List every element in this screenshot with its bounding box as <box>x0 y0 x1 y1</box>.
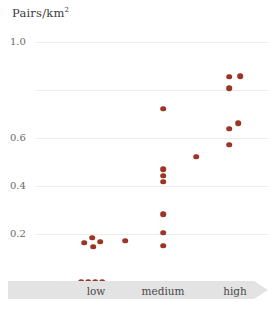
gridline-1 <box>36 42 268 43</box>
data-point <box>193 154 199 160</box>
data-point <box>235 120 241 126</box>
x-tick-label-low: low <box>87 285 106 297</box>
data-point <box>160 106 166 112</box>
y-tick-label-0.2: 0.2 <box>10 229 34 239</box>
gridline-0.8 <box>36 90 268 91</box>
gridline-0.6 <box>36 138 268 139</box>
plot-area: 0.20.40.61.0 <box>0 0 272 285</box>
y-tick-label-1.0: 1.0 <box>10 37 34 47</box>
gridline-0.4 <box>36 186 268 187</box>
data-point <box>226 142 232 148</box>
data-point <box>160 166 166 172</box>
data-point <box>237 73 243 79</box>
data-point <box>226 85 232 91</box>
data-point <box>89 235 95 241</box>
data-point <box>160 179 166 185</box>
data-point <box>160 230 166 236</box>
scatter-chart: Pairs/km2 0.20.40.61.0 lowmediumhigh <box>0 0 272 310</box>
data-point <box>226 74 232 80</box>
data-point <box>122 238 128 244</box>
data-point <box>160 211 166 217</box>
data-point <box>160 173 166 179</box>
data-point <box>90 244 96 250</box>
y-tick-label-0.6: 0.6 <box>10 133 34 143</box>
x-tick-label-medium: medium <box>142 285 185 297</box>
x-tick-label-high: high <box>223 285 247 297</box>
y-tick-label-0.4: 0.4 <box>10 181 34 191</box>
data-point <box>81 240 87 246</box>
gridline-0.2 <box>36 234 268 235</box>
data-point <box>226 126 232 132</box>
data-point <box>160 243 166 249</box>
data-point <box>97 239 103 245</box>
